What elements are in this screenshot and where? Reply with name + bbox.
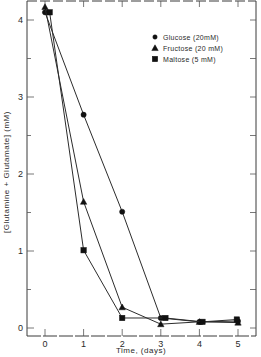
data-point-square bbox=[163, 315, 168, 320]
legend: Glucose (20mM)Fructose (20 mM)Maltose (5… bbox=[152, 34, 223, 64]
y-tick-label: 0 bbox=[18, 323, 23, 333]
series-line-triangle bbox=[45, 7, 238, 324]
data-point-triangle bbox=[42, 4, 48, 10]
x-axis-label: Time, (days) bbox=[116, 346, 166, 355]
legend-label: Maltose (5 mM) bbox=[163, 56, 216, 64]
y-axis-label: [Glutamine + Glutamate] (mM) bbox=[2, 111, 11, 233]
data-point-square bbox=[47, 10, 52, 15]
data-point-square bbox=[200, 319, 205, 324]
legend-square-icon bbox=[152, 56, 157, 61]
legend-triangle-icon bbox=[152, 45, 158, 51]
x-axis: 012345 bbox=[42, 1, 240, 349]
x-tick-label: 0 bbox=[42, 339, 47, 349]
legend-label: Glucose (20mM) bbox=[163, 34, 219, 42]
data-point-triangle bbox=[119, 304, 125, 310]
chart: 012345 01234 Glucose (20mM)Fructose (20 … bbox=[0, 0, 261, 357]
data-point-square bbox=[234, 317, 239, 322]
y-tick-label: 2 bbox=[18, 169, 23, 179]
x-tick-label: 5 bbox=[235, 339, 240, 349]
data-point-square bbox=[81, 248, 86, 253]
y-tick-label: 4 bbox=[18, 15, 23, 25]
series-group bbox=[42, 4, 241, 327]
legend-circle-icon bbox=[153, 35, 157, 39]
y-tick-label: 1 bbox=[18, 246, 23, 256]
y-axis: 01234 bbox=[18, 15, 256, 333]
x-tick-label: 1 bbox=[81, 339, 86, 349]
y-tick-label: 3 bbox=[18, 92, 23, 102]
x-tick-label: 4 bbox=[197, 339, 202, 349]
data-point-circle bbox=[120, 209, 125, 214]
data-point-triangle bbox=[80, 199, 86, 205]
data-point-square bbox=[120, 315, 125, 320]
legend-label: Fructose (20 mM) bbox=[163, 45, 223, 53]
data-point-circle bbox=[81, 112, 86, 117]
